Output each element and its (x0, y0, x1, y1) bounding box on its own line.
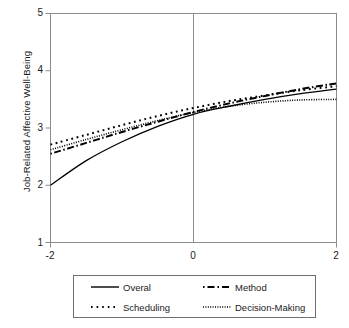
legend-label-method: Method (235, 282, 267, 293)
legend-label-overal: Overal (123, 282, 151, 293)
legend-swatch-method (202, 282, 232, 292)
legend-entry-method: Method (202, 277, 267, 297)
x-axis-ticks (51, 243, 337, 248)
legend-entry-overal: Overal (90, 277, 151, 297)
legend-entry-scheduling: Scheduling (90, 297, 170, 317)
legend-swatch-overal (90, 282, 120, 292)
y-axis-ticks (46, 14, 51, 243)
chart-figure: Job-Related Affective Well-Being 5 4 3 2… (0, 0, 349, 328)
legend-row-2: Method (202, 277, 267, 297)
legend-row-3: Scheduling (90, 297, 170, 317)
legend-label-scheduling: Scheduling (123, 302, 170, 313)
legend-swatch-scheduling (90, 302, 120, 312)
legend-swatch-decision-making (202, 302, 232, 312)
legend-entry-decision-making: Decision-Making (202, 297, 305, 317)
legend-row-1: Overal (90, 277, 151, 297)
legend-row-4: Decision-Making (202, 297, 305, 317)
legend-label-decision-making: Decision-Making (235, 302, 305, 313)
chart-legend: Overal Method Scheduling (73, 275, 316, 318)
